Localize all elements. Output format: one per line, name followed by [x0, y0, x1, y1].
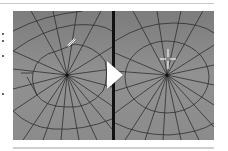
bottom-separator [13, 147, 214, 149]
cropped-text-fragments [0, 30, 6, 100]
play-arrow-icon[interactable] [107, 61, 123, 89]
pole-vertex-before [65, 73, 68, 76]
top-separator [0, 3, 214, 4]
pole-vertex-after [165, 73, 168, 76]
comparison-figure [13, 11, 214, 140]
